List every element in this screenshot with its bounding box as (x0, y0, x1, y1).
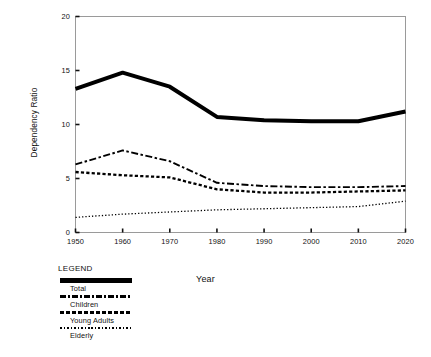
legend-label-total: Total (70, 284, 178, 293)
y-tick-label: 5 (46, 174, 70, 183)
y-axis-title: Dependency Ratio (30, 53, 39, 193)
series-line-total (76, 73, 406, 122)
x-tick-label: 2010 (344, 237, 372, 246)
legend-item-young-adults[interactable]: Young Adults (58, 311, 178, 325)
x-tick-label: 1970 (156, 237, 184, 246)
x-tick-label: 1950 (62, 237, 90, 246)
series-line-children (76, 150, 406, 187)
legend-swatch-children (60, 295, 132, 298)
legend-swatch-total (60, 278, 132, 283)
y-tick-label: 10 (46, 120, 70, 129)
legend-swatch-elderly (60, 327, 132, 329)
y-tick-label: 15 (46, 66, 70, 75)
legend-label-children: Children (70, 300, 178, 309)
legend-title: LEGEND (58, 264, 178, 273)
legend-swatch-young-adults (60, 311, 132, 314)
chart-figure: Dependency Ratio Year 05101520 195019601… (0, 0, 431, 357)
x-tick-label: 2000 (297, 237, 325, 246)
x-tick-label: 2020 (392, 237, 420, 246)
legend-label-elderly: Elderly (70, 331, 178, 340)
x-axis-ticks (76, 229, 406, 233)
x-tick-label: 1980 (203, 237, 231, 246)
y-axis-ticks (76, 17, 80, 233)
legend: LEGEND TotalChildrenYoung AdultsElderly (58, 264, 178, 342)
legend-label-young-adults: Young Adults (70, 316, 178, 325)
y-tick-label: 20 (46, 12, 70, 21)
series-line-young-adults (76, 172, 406, 193)
legend-item-elderly[interactable]: Elderly (58, 327, 178, 340)
x-tick-label: 1960 (109, 237, 137, 246)
series-line-elderly (76, 201, 406, 217)
series-lines (76, 73, 406, 218)
legend-item-total[interactable]: Total (58, 278, 178, 293)
legend-item-children[interactable]: Children (58, 295, 178, 309)
plot-frame (76, 17, 406, 233)
x-tick-label: 1990 (250, 237, 278, 246)
x-axis-title: Year (196, 274, 215, 284)
